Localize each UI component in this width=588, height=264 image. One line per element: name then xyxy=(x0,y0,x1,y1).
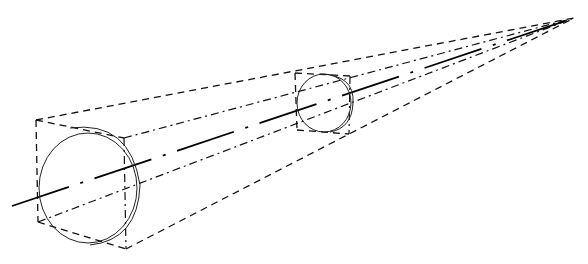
bottom-back-convergence-line xyxy=(126,18,574,249)
perspective-diagram xyxy=(0,0,588,264)
far-front-circle xyxy=(297,74,351,132)
far-back-arc xyxy=(320,74,353,132)
far-box-right-edge xyxy=(349,76,350,134)
near-box-top-edge xyxy=(36,120,124,138)
near-box-left-edge xyxy=(36,120,38,222)
construction-lines xyxy=(36,18,574,249)
near-box-back-edge xyxy=(124,138,126,249)
top-left-convergence-line xyxy=(36,18,574,120)
bottom-left-convergence-line xyxy=(38,18,574,222)
near-bounding-box xyxy=(36,120,126,249)
diagram-svg xyxy=(0,0,588,264)
near-back-arc xyxy=(70,127,140,245)
central-axis-line xyxy=(12,18,574,206)
